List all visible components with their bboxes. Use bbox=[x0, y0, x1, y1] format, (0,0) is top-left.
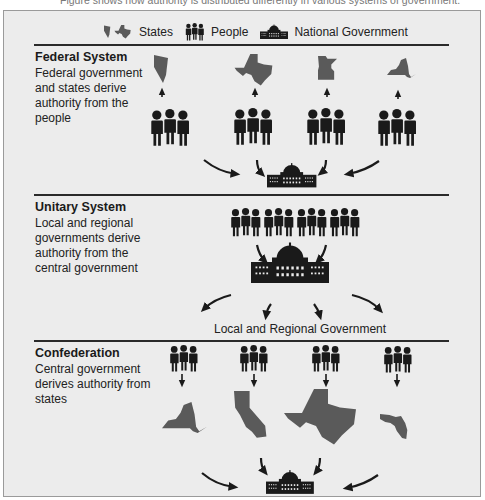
figure-caption-partial: Figure shows how authority is distribute… bbox=[60, 0, 485, 6]
diagram-frame: States People National Government Federa… bbox=[3, 10, 481, 497]
state-florida-icon bbox=[380, 414, 407, 439]
state-texas-icon bbox=[284, 389, 356, 445]
confederation-capitol-icon bbox=[266, 470, 314, 494]
down-arrow-icons bbox=[182, 374, 397, 384]
confederation-diagram bbox=[4, 11, 482, 500]
people-groups-icon bbox=[170, 345, 411, 373]
state-california-icon bbox=[234, 391, 266, 438]
state-newyork-icon bbox=[162, 402, 207, 433]
